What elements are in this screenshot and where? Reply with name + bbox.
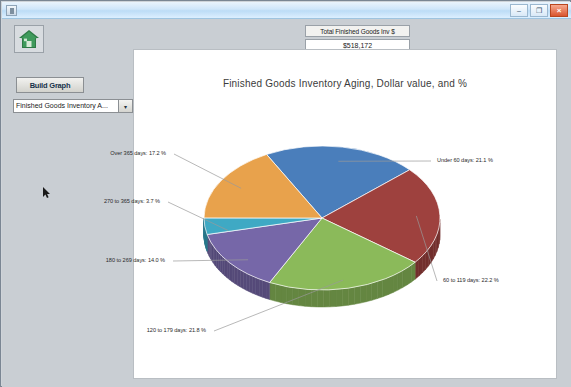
report-select-value: Finished Goods Inventory A...: [14, 100, 118, 112]
chart-panel: Finished Goods Inventory Aging, Dollar v…: [133, 49, 557, 379]
pie-slice-label: 270 to 365 days: 3.7 %: [104, 198, 160, 204]
pie-slice-label: Under 60 days: 21.1 %: [437, 157, 493, 163]
home-button[interactable]: [14, 25, 44, 53]
pie-slice-label: Over 365 days: 17.2 %: [110, 150, 166, 156]
pie-slice-label: 180 to 269 days: 14.0 %: [106, 257, 165, 263]
minimize-button[interactable]: –: [510, 4, 528, 17]
client-area: Total Finished Goods Inv $ $518,172 Buil…: [2, 19, 571, 387]
report-select[interactable]: Finished Goods Inventory A... ▾: [13, 99, 133, 113]
pie-slice-label: 120 to 179 days: 21.8 %: [147, 327, 206, 333]
mouse-cursor: [43, 187, 50, 198]
title-bar: – ❐ ×: [2, 2, 571, 19]
chevron-down-icon[interactable]: ▾: [118, 100, 132, 112]
pie-chart: Under 60 days: 21.1 %60 to 119 days: 22.…: [134, 50, 556, 378]
home-icon: [18, 29, 40, 49]
window-icon: [6, 5, 17, 16]
window-controls: – ❐ ×: [510, 4, 568, 17]
maximize-button[interactable]: ❐: [530, 4, 548, 17]
total-inventory-label: Total Finished Goods Inv $: [305, 25, 410, 37]
close-button[interactable]: ×: [550, 4, 568, 17]
build-graph-button[interactable]: Build Graph: [16, 77, 84, 93]
application-window: – ❐ × Total Finished Goods Inv $ $518,17…: [0, 0, 571, 387]
pie-slice-label: 60 to 119 days: 22.2 %: [443, 277, 499, 283]
